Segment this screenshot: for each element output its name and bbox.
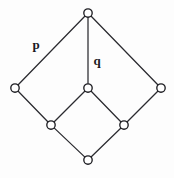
node-lower-left	[47, 121, 55, 129]
edge-lowerright-bottom	[91, 128, 120, 157]
edge-lowerleft-bottom	[54, 128, 84, 157]
edge-top-right	[91, 16, 158, 84]
lattice-diagram: pq	[0, 0, 174, 178]
edge-label-p: p	[32, 38, 39, 51]
edge-top-left	[18, 16, 85, 84]
edge-center-lowerleft	[54, 91, 85, 122]
edge-label-q: q	[93, 54, 100, 67]
node-center	[84, 84, 92, 92]
node-top	[84, 9, 92, 17]
edge-center-lowerright	[91, 91, 121, 121]
edge-right-lowerright	[127, 91, 158, 122]
edge-left-lowerleft	[18, 91, 48, 121]
diagram-canvas	[0, 0, 174, 178]
node-bottom	[84, 156, 92, 164]
node-right	[157, 84, 165, 92]
node-left	[11, 84, 19, 92]
node-lower-right	[120, 121, 128, 129]
